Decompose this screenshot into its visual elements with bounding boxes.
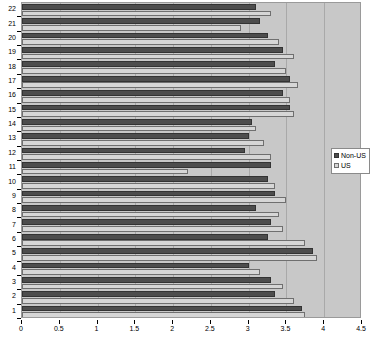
bar-us-20[interactable] [22,39,279,45]
bar-non-us-13[interactable] [22,133,249,139]
bar-non-us-14[interactable] [22,119,252,125]
bar-us-14[interactable] [22,126,256,132]
legend-swatch-icon-non-us [334,153,339,158]
x-tick-mark-1.5 [134,320,135,324]
bar-us-21[interactable] [22,25,241,31]
bar-us-17[interactable] [22,82,298,88]
bar-us-12[interactable] [22,154,271,160]
bar-row-2 [22,290,360,304]
x-tick-label-0.5: 0.5 [54,325,64,333]
bar-non-us-4[interactable] [22,263,249,269]
bar-non-us-16[interactable] [22,90,283,96]
y-tick-mark-7 [17,232,21,233]
y-tick-mark-15 [17,117,21,118]
bar-us-1[interactable] [22,312,305,318]
bar-row-21 [22,17,360,31]
bar-non-us-21[interactable] [22,18,260,24]
y-tick-label-21: 21 [8,20,16,28]
bar-non-us-12[interactable] [22,148,245,154]
y-tick-mark-5 [17,261,21,262]
y-tick-label-2: 2 [12,292,16,300]
bar-non-us-22[interactable] [22,4,256,10]
y-tick-mark-20 [17,45,21,46]
x-tick-label-1: 1 [95,325,99,333]
legend-item-us[interactable]: US [334,161,366,170]
x-tick-mark-4 [323,320,324,324]
bar-us-15[interactable] [22,111,294,117]
bar-row-11 [22,161,360,175]
bar-non-us-20[interactable] [22,33,268,39]
bar-rows [22,3,360,317]
x-tick-label-3: 3 [246,325,250,333]
bar-row-13 [22,132,360,146]
y-tick-label-22: 22 [8,5,16,13]
bar-us-13[interactable] [22,140,264,146]
y-tick-mark-9 [17,203,21,204]
bar-non-us-17[interactable] [22,76,290,82]
bar-non-us-2[interactable] [22,291,275,297]
x-tick-label-3.5: 3.5 [281,325,291,333]
bar-us-4[interactable] [22,269,260,275]
bar-row-7 [22,218,360,232]
y-tick-label-9: 9 [12,192,16,200]
y-tick-label-17: 17 [8,77,16,85]
bar-us-9[interactable] [22,197,286,203]
y-tick-mark-21 [17,31,21,32]
bar-non-us-6[interactable] [22,234,268,240]
bar-non-us-19[interactable] [22,47,283,53]
y-tick-label-19: 19 [8,48,16,56]
bar-chart: 12345678910111213141516171819202122 00.5… [0,0,381,344]
x-tick-label-0: 0 [19,325,23,333]
bar-us-18[interactable] [22,68,286,74]
bar-row-10 [22,175,360,189]
bar-non-us-11[interactable] [22,162,271,168]
y-tick-mark-16 [17,103,21,104]
bar-us-5[interactable] [22,255,317,261]
y-tick-mark-10 [17,189,21,190]
bar-non-us-5[interactable] [22,248,313,254]
y-tick-label-12: 12 [8,149,16,157]
bar-us-16[interactable] [22,97,290,103]
bar-row-16 [22,89,360,103]
bar-row-12 [22,147,360,161]
x-tick-mark-2.5 [210,320,211,324]
x-tick-mark-0 [21,320,22,324]
y-tick-mark-22 [17,16,21,17]
y-tick-mark-19 [17,59,21,60]
bar-us-6[interactable] [22,240,305,246]
bar-us-2[interactable] [22,298,294,304]
y-tick-mark-3 [17,289,21,290]
bar-non-us-18[interactable] [22,61,275,67]
bar-us-8[interactable] [22,212,279,218]
bar-us-3[interactable] [22,284,283,290]
y-tick-mark-2 [17,304,21,305]
bar-row-1 [22,305,360,318]
bar-non-us-10[interactable] [22,176,268,182]
bar-row-14 [22,118,360,132]
y-tick-mark-11 [17,174,21,175]
bar-us-7[interactable] [22,226,283,232]
x-tick-mark-0.5 [59,320,60,324]
bar-non-us-8[interactable] [22,205,256,211]
bar-non-us-15[interactable] [22,105,290,111]
bar-non-us-3[interactable] [22,277,271,283]
y-tick-label-16: 16 [8,91,16,99]
legend-label-us: US [341,162,351,170]
bar-us-22[interactable] [22,11,271,17]
x-axis: 00.511.522.533.544.5 [0,320,381,336]
y-tick-label-11: 11 [9,163,16,171]
bar-non-us-7[interactable] [22,219,271,225]
bar-non-us-9[interactable] [22,191,275,197]
y-tick-label-6: 6 [12,235,16,243]
y-tick-mark-4 [17,275,21,276]
y-tick-label-13: 13 [8,134,16,142]
y-tick-label-20: 20 [8,34,16,42]
legend-item-non-us[interactable]: Non-US [334,151,366,160]
bar-us-11[interactable] [22,169,188,175]
y-tick-mark-17 [17,88,21,89]
bar-us-10[interactable] [22,183,275,189]
bar-non-us-1[interactable] [22,306,302,312]
x-tick-label-1.5: 1.5 [129,325,139,333]
bar-us-19[interactable] [22,54,294,60]
bar-row-17 [22,75,360,89]
